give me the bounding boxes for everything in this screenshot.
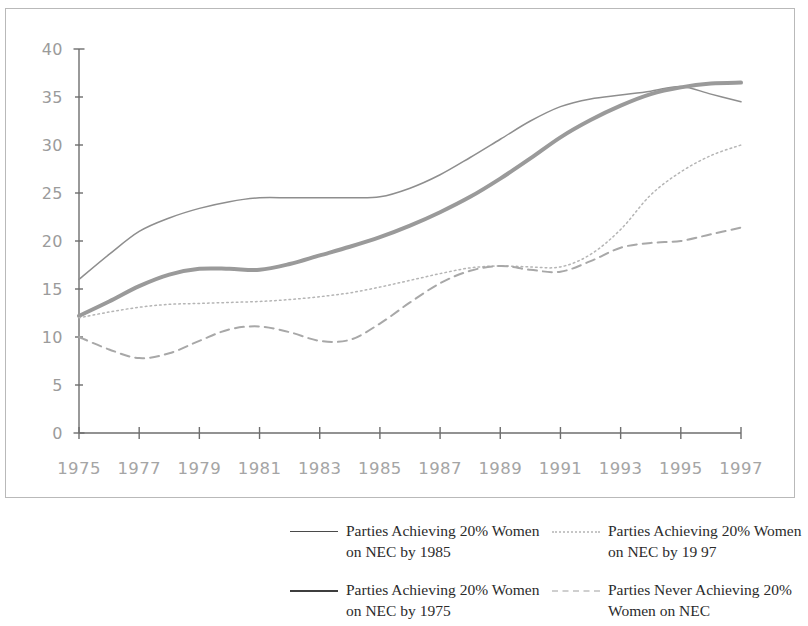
legend-label-line2: on NEC by 1985 — [346, 543, 451, 560]
x-axis-tick-label: 1975 — [57, 459, 101, 478]
legend-entry-by-1985: Parties Achieving 20% Women on NEC by 19… — [290, 520, 540, 562]
x-axis-tick-label: 1997 — [719, 459, 763, 478]
legend-label-line1: Parties Achieving 20% Women — [346, 581, 539, 598]
chart-page: 0510152025303540 19751977197919811983198… — [0, 0, 808, 626]
x-axis-tick-label: 1981 — [238, 459, 282, 478]
x-axis-tick-label: 1989 — [478, 459, 522, 478]
legend-entry-never: Parties Never Achieving 20% Women on NEC — [552, 579, 802, 621]
y-axis-tick-label: 25 — [42, 184, 63, 203]
legend-line-sample-icon — [552, 583, 600, 599]
y-axis-tick-label: 40 — [42, 40, 63, 59]
legend-column-right: Parties Achieving 20% Women on NEC by 19… — [552, 520, 802, 626]
y-axis-tick-label: 5 — [52, 376, 63, 395]
chart-frame: 0510152025303540 19751977197919811983198… — [5, 8, 795, 498]
y-axis-tick-label: 30 — [42, 136, 63, 155]
legend-label-line2: on NEC by 19 97 — [608, 543, 717, 560]
legend-label: Parties Never Achieving 20% Women on NEC — [608, 579, 792, 621]
legend-label: Parties Achieving 20% Women on NEC by 19… — [608, 520, 801, 562]
legend-entry-by-1975: Parties Achieving 20% Women on NEC by 19… — [290, 579, 540, 621]
y-axis-tick-label: 35 — [42, 88, 63, 107]
x-axis-tick-label: 1987 — [418, 459, 462, 478]
chart-series-line — [79, 83, 741, 316]
y-axis-tick-label: 10 — [42, 328, 63, 347]
y-axis-tick-labels: 0510152025303540 — [42, 40, 63, 443]
x-axis-tick-label: 1983 — [298, 459, 342, 478]
x-axis-tick-label: 1991 — [539, 459, 583, 478]
x-axis-tick-label: 1979 — [178, 459, 222, 478]
legend-entry-by-1997: Parties Achieving 20% Women on NEC by 19… — [552, 520, 802, 562]
x-axis-tick-label: 1985 — [358, 459, 402, 478]
chart-series-group — [79, 83, 741, 359]
x-axis-tick-label: 1993 — [599, 459, 643, 478]
legend-label: Parties Achieving 20% Women on NEC by 19… — [346, 579, 539, 621]
chart-legend: Parties Achieving 20% Women on NEC by 19… — [290, 520, 802, 626]
legend-line-sample-icon — [552, 524, 600, 540]
chart-series-line — [79, 228, 741, 359]
y-axis-tick-label: 0 — [52, 424, 63, 443]
legend-column-left: Parties Achieving 20% Women on NEC by 19… — [290, 520, 540, 626]
legend-label-line1: Parties Achieving 20% Women — [608, 522, 801, 539]
legend-line-sample-icon — [290, 524, 338, 540]
x-axis-tick-label: 1995 — [659, 459, 703, 478]
line-chart-plot: 0510152025303540 19751977197919811983198… — [6, 9, 794, 497]
y-axis-tick-label: 15 — [42, 280, 63, 299]
legend-label-line2: Women on NEC — [608, 602, 710, 619]
x-axis-tick-labels: 1975197719791981198319851987198919911993… — [57, 459, 763, 478]
x-axis-tick-label: 1977 — [117, 459, 161, 478]
legend-label-line1: Parties Achieving 20% Women — [346, 522, 539, 539]
chart-series-line — [79, 86, 741, 279]
legend-label-line2: on NEC by 1975 — [346, 602, 451, 619]
y-axis-tick-label: 20 — [42, 232, 63, 251]
legend-line-sample-icon — [290, 583, 338, 599]
legend-label-line1: Parties Never Achieving 20% — [608, 581, 792, 598]
chart-series-line — [79, 145, 741, 318]
legend-label: Parties Achieving 20% Women on NEC by 19… — [346, 520, 539, 562]
